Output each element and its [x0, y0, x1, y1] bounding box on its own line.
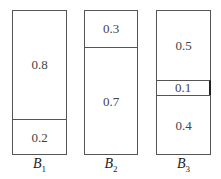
- bin-label-b3-sub: 3: [186, 164, 191, 174]
- bin-label-b3: B3: [156, 156, 211, 174]
- segment-b2-top: 0.3: [85, 11, 137, 47]
- segment-b1-bottom: 0.2: [13, 119, 66, 155]
- segment-b3-top: 0.5: [157, 11, 210, 80]
- bin-label-b2: B2: [84, 156, 138, 174]
- segment-b2-bottom: 0.7: [85, 47, 137, 155]
- bin-label-b1-base: B: [33, 156, 42, 171]
- bin-label-b1: B1: [12, 156, 67, 174]
- bin-b3: 0.5 0.1 0.4: [156, 10, 211, 155]
- bin-label-b3-base: B: [177, 156, 186, 171]
- bin-b1: 0.8 0.2: [12, 10, 67, 155]
- segment-b3-bottom: 0.4: [157, 95, 210, 155]
- segment-b1-top: 0.8: [13, 11, 66, 119]
- bin-label-b2-base: B: [104, 156, 113, 171]
- bin-label-b2-sub: 2: [113, 164, 118, 174]
- bin-label-b1-sub: 1: [42, 164, 47, 174]
- bin-b2: 0.3 0.7: [84, 10, 138, 155]
- segment-b3-middle: 0.1: [157, 80, 211, 95]
